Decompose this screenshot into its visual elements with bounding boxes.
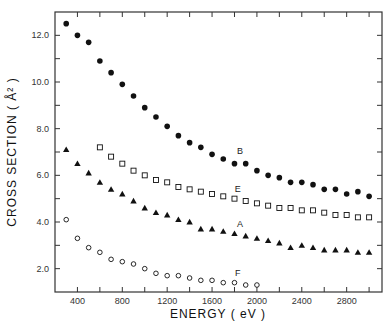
- data-point: [299, 208, 304, 213]
- data-point: [97, 145, 102, 150]
- x-tick-label: 2000: [247, 296, 267, 306]
- series-e: [97, 145, 371, 220]
- data-point: [98, 250, 103, 255]
- series-a: [63, 146, 372, 254]
- data-point: [131, 168, 136, 173]
- x-tick-label: 2800: [337, 296, 357, 306]
- data-point: [108, 70, 114, 76]
- data-point: [120, 82, 126, 88]
- y-axis: 2.04.06.08.010.012.0: [31, 30, 382, 273]
- data-point: [75, 33, 81, 39]
- x-tick-label: 1600: [202, 296, 222, 306]
- data-point: [232, 161, 238, 167]
- data-point: [288, 180, 294, 186]
- data-point: [231, 230, 237, 236]
- data-point: [221, 194, 226, 199]
- series-label-b: B: [237, 146, 243, 156]
- data-point: [254, 201, 259, 206]
- data-point: [265, 237, 271, 243]
- y-axis-title: CROSS SECTION ( Å² ): [4, 77, 19, 226]
- y-tick-label: 10.0: [31, 77, 49, 87]
- data-point: [299, 180, 305, 186]
- data-point: [153, 178, 158, 183]
- data-point: [344, 213, 349, 218]
- data-point: [220, 156, 226, 162]
- data-point: [120, 161, 125, 166]
- data-point: [187, 140, 193, 146]
- data-point: [332, 247, 338, 253]
- data-point: [164, 212, 170, 218]
- data-point: [276, 240, 282, 246]
- data-point: [221, 280, 226, 285]
- data-point: [86, 40, 92, 46]
- plot-border: [55, 12, 382, 292]
- data-point: [63, 146, 69, 152]
- data-point: [343, 247, 349, 253]
- data-point: [277, 175, 283, 181]
- data-point: [86, 245, 91, 250]
- data-point: [175, 216, 181, 222]
- data-point: [108, 186, 114, 192]
- series-f: [64, 217, 259, 287]
- data-point: [186, 219, 192, 225]
- data-point: [75, 236, 80, 241]
- data-point: [199, 278, 204, 283]
- data-point: [109, 154, 114, 159]
- data-point: [120, 259, 125, 264]
- data-point: [74, 160, 80, 166]
- data-point: [367, 215, 372, 220]
- data-point: [311, 208, 316, 213]
- series-labels: BEAF: [235, 146, 243, 277]
- data-point: [210, 192, 215, 197]
- data-point: [288, 206, 293, 211]
- data-point: [176, 185, 181, 190]
- data-point: [310, 182, 316, 188]
- series-layer: [63, 21, 372, 287]
- data-point: [310, 244, 316, 250]
- series-label-a: A: [237, 219, 243, 229]
- data-point: [142, 173, 147, 178]
- data-point: [176, 133, 182, 139]
- data-point: [266, 203, 271, 208]
- data-point: [355, 189, 361, 195]
- data-point: [321, 247, 327, 253]
- data-point: [198, 226, 204, 232]
- x-axis-title: ENERGY ( eV ): [170, 307, 266, 321]
- data-point: [142, 205, 148, 211]
- data-point: [333, 187, 339, 193]
- data-point: [198, 189, 203, 194]
- y-tick-label: 2.0: [36, 264, 49, 274]
- data-point: [322, 210, 327, 215]
- data-point: [165, 180, 170, 185]
- data-point: [287, 244, 293, 250]
- data-point: [209, 226, 215, 232]
- data-point: [198, 145, 204, 151]
- data-point: [176, 273, 181, 278]
- data-point: [232, 196, 237, 201]
- x-tick-label: 1200: [157, 296, 177, 306]
- data-point: [64, 217, 69, 222]
- data-point: [366, 249, 372, 255]
- data-point: [142, 105, 148, 111]
- data-point: [153, 114, 159, 120]
- x-tick-label: 400: [70, 296, 85, 306]
- data-point: [154, 271, 159, 276]
- data-point: [131, 93, 137, 99]
- series-b: [63, 21, 371, 199]
- data-point: [344, 191, 350, 197]
- y-tick-label: 12.0: [31, 30, 49, 40]
- y-tick-label: 4.0: [36, 217, 49, 227]
- data-point: [277, 206, 282, 211]
- data-point: [210, 278, 215, 283]
- data-point: [243, 161, 249, 167]
- x-tick-label: 800: [115, 296, 130, 306]
- data-point: [366, 194, 372, 200]
- plot-frame: [55, 12, 382, 292]
- data-point: [220, 228, 226, 234]
- cross-section-chart: 40080012001600200024002800 2.04.06.08.01…: [0, 0, 392, 332]
- data-point: [119, 191, 125, 197]
- x-tick-label: 2400: [292, 296, 312, 306]
- series-label-e: E: [235, 184, 241, 194]
- data-point: [321, 187, 327, 193]
- x-axis: 40080012001600200024002800: [70, 12, 369, 306]
